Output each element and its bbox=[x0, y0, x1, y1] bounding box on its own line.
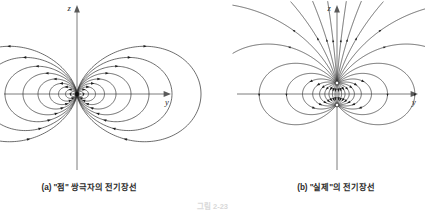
z-axis-arrowhead-b bbox=[334, 5, 340, 12]
field-line-diagram-b: z y bbox=[213, 0, 425, 176]
figure-number-label: 그림 2-23 bbox=[0, 202, 425, 210]
dipole-core-a bbox=[75, 91, 79, 96]
axes-b: z y bbox=[237, 3, 418, 170]
panel-physical-dipole: z y (b) "실제"의 전기장선 bbox=[213, 0, 425, 210]
plot-area-b: z y bbox=[213, 0, 425, 176]
z-axis-label-a: z bbox=[67, 3, 72, 13]
caption-panel-a: (a) "점" 쌍극자의 전기장선 bbox=[0, 180, 195, 192]
z-axis-arrowhead-a bbox=[74, 5, 80, 12]
field-line-diagram-a: z y bbox=[0, 0, 212, 176]
y-axis-label-a: y bbox=[164, 97, 169, 107]
caption-panel-b: (b) "실제"의 전기장선 bbox=[230, 180, 425, 192]
panel-point-dipole: z y (a) "점" 쌍극자의 전기장선 bbox=[0, 0, 212, 210]
field-lines-b bbox=[233, 2, 425, 125]
figure-container: z y (a) "점" 쌍극자의 전기장선 z y bbox=[0, 0, 425, 210]
plot-area-a: z y bbox=[0, 0, 212, 176]
